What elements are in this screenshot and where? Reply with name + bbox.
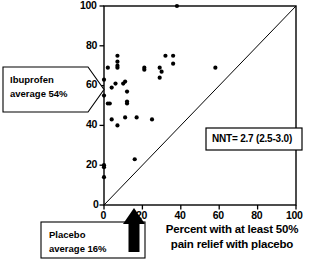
data-point [115, 54, 119, 58]
y-tick-label-60: 60 [86, 79, 97, 91]
x-axis-title-line2: pain relief with placebo [152, 238, 312, 252]
data-point [102, 93, 106, 97]
x-tick-label-60: 60 [213, 210, 224, 222]
data-point [123, 80, 127, 84]
data-point [102, 165, 106, 169]
y-tick-label-0: 0 [93, 199, 99, 211]
data-point [108, 101, 112, 105]
data-point [133, 157, 137, 161]
data-point [175, 4, 179, 8]
plot-canvas [0, 0, 316, 261]
data-point [135, 115, 139, 119]
y-tick-label-20: 20 [86, 159, 97, 171]
data-point [110, 85, 114, 89]
y-tick-label-40: 40 [86, 119, 97, 131]
y-tick-label-100: 100 [80, 0, 97, 12]
placebo-callout-line1: Placebo [49, 229, 85, 241]
data-point [171, 62, 175, 66]
data-point [102, 78, 106, 82]
data-point [160, 70, 164, 74]
x-tick-label-40: 40 [174, 210, 185, 222]
ibuprofen-callout-line2: average 54% [10, 88, 68, 100]
data-point [142, 68, 146, 72]
scatter-plot-figure: 100 80 60 40 20 0 0 20 40 60 80 100 Ibup… [0, 0, 316, 261]
x-tick-label-80: 80 [251, 210, 262, 222]
data-point [115, 60, 119, 64]
data-point [213, 66, 217, 70]
data-point [106, 66, 110, 70]
nnt-label: NNT= 2.7 (2.5-3.0) [212, 133, 292, 144]
data-point [158, 76, 162, 80]
x-tick-label-0: 0 [101, 210, 107, 222]
data-point [115, 66, 119, 70]
x-axis-title-line1: Percent with at least 50% [152, 223, 312, 237]
y-tick-label-80: 80 [86, 40, 97, 52]
data-point [113, 82, 117, 86]
x-tick-label-20: 20 [136, 210, 147, 222]
data-point [163, 54, 167, 58]
data-point [171, 54, 175, 58]
data-point [125, 101, 129, 105]
ibuprofen-callout-line1: Ibuprofen [10, 74, 54, 86]
placebo-callout-line2: average 16% [49, 243, 107, 255]
data-point [123, 115, 127, 119]
data-point [125, 89, 129, 93]
data-point [110, 117, 114, 121]
data-point [150, 117, 154, 121]
data-point [158, 66, 162, 70]
data-point [102, 175, 106, 179]
data-point [115, 123, 119, 127]
x-tick-label-100: 100 [286, 210, 303, 222]
